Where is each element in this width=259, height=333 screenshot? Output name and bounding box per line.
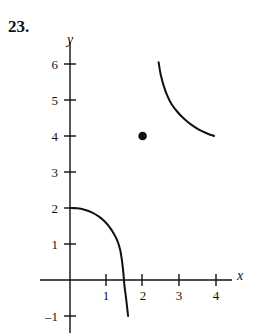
- y-tick-label-6: 6: [52, 57, 59, 72]
- figure-page: 23. 6 5 4 3 2 1 –1 1 2 3 4 x y: [0, 0, 259, 333]
- y-tick-label-3: 3: [52, 165, 59, 180]
- x-tick-label-4: 4: [213, 288, 220, 303]
- x-tick-label-3: 3: [176, 288, 183, 303]
- y-axis-label: y: [65, 32, 74, 47]
- y-tick-label-4: 4: [52, 129, 59, 144]
- x-axis-label: x: [236, 268, 244, 283]
- x-tick-label-2: 2: [140, 288, 147, 303]
- graph-canvas: 6 5 4 3 2 1 –1 1 2 3 4 x y: [0, 0, 259, 333]
- y-tick-label-5: 5: [52, 93, 59, 108]
- x-tick-label-1: 1: [103, 288, 110, 303]
- data-points: [138, 132, 147, 141]
- curve-lower-branch: [70, 208, 128, 316]
- y-tick-label-neg1: –1: [44, 309, 58, 324]
- y-tick-label-2: 2: [52, 201, 59, 216]
- curve-upper-branch: [159, 62, 215, 136]
- data-point-marker: [138, 132, 147, 141]
- y-tick-label-1: 1: [52, 237, 59, 252]
